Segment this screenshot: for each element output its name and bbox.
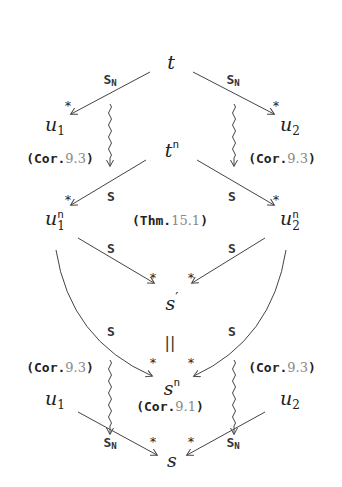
ref-num: 15.1: [171, 213, 200, 228]
ref-kind: Thm.: [140, 213, 171, 228]
node-s: s: [167, 451, 177, 470]
node-u1n: un1: [45, 209, 65, 232]
node-u2n-sup: n: [292, 209, 300, 220]
label-s-u2n-sprime: S: [228, 242, 236, 255]
label-sn-top-right: SN: [226, 73, 239, 86]
node-u2n-sub: 2: [292, 220, 300, 232]
star-sprime-right: *: [188, 271, 195, 284]
node-u2n-base: u: [280, 207, 292, 229]
node-u2-bottom: u2: [280, 389, 300, 412]
node-u1n-base: u: [45, 207, 57, 229]
ref-num: 9.3: [287, 360, 308, 375]
label-sn-top-left: SN: [103, 73, 116, 86]
node-s-prime-base: s: [166, 292, 176, 314]
label-s-tn-u2n: S: [228, 190, 236, 203]
ref-thm151: (Thm.15.1): [132, 214, 208, 227]
ref-kind: Cor.: [144, 399, 175, 414]
ref-cor93-bottom-left: (Cor.9.3): [26, 361, 94, 374]
node-t-base: t: [167, 51, 175, 73]
ref-cor93-top-left: (Cor.9.3): [26, 152, 94, 165]
node-u1n-sub: 1: [57, 220, 65, 232]
ref-num: 9.3: [65, 151, 86, 166]
wavy-arrow-right-top: [233, 104, 236, 166]
label-sub: N: [111, 78, 116, 88]
label-sn-bottom-left: SN: [103, 436, 116, 449]
curve-u2n-to-sn: [194, 250, 286, 376]
node-u1-bottom: u1: [45, 389, 65, 412]
node-u2-bottom-sub: 2: [292, 398, 300, 412]
node-u2n: un2: [280, 209, 300, 232]
ref-kind: Cor.: [34, 360, 65, 375]
node-sn-sup: n: [174, 376, 181, 389]
label-s-curve-right: S: [228, 325, 236, 338]
star-u1-top: *: [65, 99, 72, 112]
node-s-prime-sup: ′: [175, 290, 178, 306]
wavy-arrow-left-bottom: [109, 360, 112, 434]
label-main: S: [103, 72, 111, 87]
ref-cor91: (Cor.9.1): [136, 400, 204, 413]
ref-cor93-top-right: (Cor.9.3): [248, 152, 316, 165]
star-u1n: *: [65, 193, 72, 206]
node-u2-top-base: u: [280, 113, 292, 135]
star-sn-left: *: [150, 356, 157, 369]
star-sprime-left: *: [150, 271, 157, 284]
node-u1-bottom-sub: 1: [57, 398, 65, 412]
label-sub: N: [234, 441, 239, 451]
node-tn-base: t: [165, 139, 173, 161]
node-tn: tn: [165, 140, 179, 159]
label-sub: N: [234, 78, 239, 88]
node-sn-base: s: [164, 377, 174, 399]
node-u2-top: u2: [280, 115, 300, 138]
node-tn-sup: n: [173, 138, 180, 151]
star-u2-top: *: [273, 99, 280, 112]
ref-kind: Cor.: [256, 360, 287, 375]
label-main: S: [103, 435, 111, 450]
arrow-u1-to-s: [78, 412, 157, 455]
node-u2-bottom-base: u: [280, 387, 292, 409]
label-s-tn-u1n: S: [107, 190, 115, 203]
ref-kind: Cor.: [256, 151, 287, 166]
label-s-u1n-sprime: S: [107, 242, 115, 255]
ref-num: 9.3: [65, 360, 86, 375]
label-sn-bottom-right: SN: [226, 436, 239, 449]
ref-num: 9.3: [287, 151, 308, 166]
node-s-prime: s′: [166, 291, 179, 313]
ref-cor93-bottom-right: (Cor.9.3): [248, 361, 316, 374]
arrow-u1n-to-sprime: [78, 238, 154, 283]
node-s-base: s: [167, 449, 177, 471]
star-u2n: *: [273, 193, 280, 206]
node-t: t: [167, 53, 175, 72]
label-s-curve-left: S: [107, 325, 115, 338]
diagram-arrows: [0, 0, 342, 487]
label-sub: N: [111, 441, 116, 451]
node-u1-top-sub: 1: [57, 124, 65, 138]
ref-num: 9.1: [175, 399, 196, 414]
node-u1-bottom-base: u: [45, 387, 57, 409]
ref-kind: Cor.: [34, 151, 65, 166]
star-s-right: *: [188, 435, 195, 448]
node-u1-top-base: u: [45, 113, 57, 135]
label-main: S: [226, 72, 234, 87]
node-u2-top-sub: 2: [292, 124, 300, 138]
curve-u1n-to-sn: [56, 250, 152, 376]
node-sn: sn: [164, 378, 180, 397]
node-u1n-sup: n: [57, 209, 65, 220]
label-main: S: [226, 435, 234, 450]
wavy-arrow-left-top: [109, 104, 112, 166]
wavy-arrow-right-bottom: [233, 360, 236, 434]
equality-sign: ||: [165, 335, 176, 351]
star-sn-right: *: [188, 356, 195, 369]
star-s-left: *: [150, 435, 157, 448]
node-u1-top: u1: [45, 115, 65, 138]
